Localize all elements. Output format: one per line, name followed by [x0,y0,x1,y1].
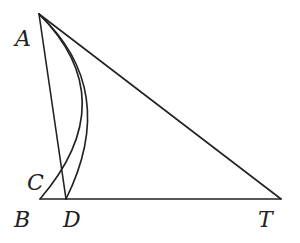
arc-AD [39,14,88,199]
label-C: C [27,170,44,195]
diagram-svg: A C B D T [0,0,300,243]
label-B: B [13,207,30,232]
segment-AT [39,14,281,199]
label-A: A [13,26,31,51]
label-T: T [258,207,275,232]
geometry-diagram: A C B D T [0,0,300,243]
label-D: D [62,207,81,232]
